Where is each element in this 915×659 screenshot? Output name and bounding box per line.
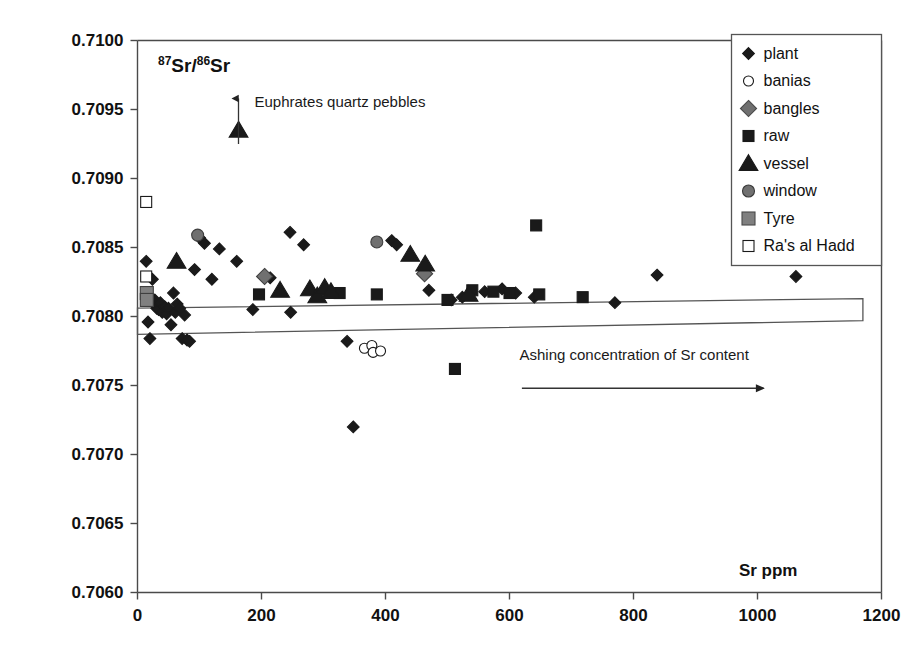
x-axis-title: Sr ppm <box>739 561 798 580</box>
data-point <box>449 363 460 374</box>
y-tick-label: 0.7075 <box>72 376 124 395</box>
data-point <box>141 196 152 207</box>
x-tick-label: 1200 <box>863 606 901 625</box>
y-tick-label: 0.7070 <box>72 445 124 464</box>
data-point <box>371 289 382 300</box>
legend-item-tyre[interactable]: Tyre <box>742 210 795 227</box>
scatter-plot-svg: 0.70600.70650.70700.70750.70800.70850.70… <box>0 0 915 659</box>
legend-item-label: vessel <box>764 155 809 172</box>
data-point <box>651 269 663 281</box>
x-tick-label: 400 <box>371 606 399 625</box>
data-point <box>488 286 499 297</box>
legend-item-label: Tyre <box>764 210 795 227</box>
legend-item-label: plant <box>764 45 799 62</box>
legend-item-label: bangles <box>764 100 820 117</box>
y-tick-label: 0.7085 <box>72 238 124 257</box>
data-point <box>401 246 420 262</box>
data-point <box>609 297 621 309</box>
data-point <box>142 316 154 328</box>
figure-container: 0.70600.70650.70700.70750.70800.70850.70… <box>0 0 915 659</box>
data-point <box>141 271 152 282</box>
y-tick-label: 0.7080 <box>72 307 124 326</box>
legend-box <box>732 35 882 266</box>
legend-item-vessel[interactable]: vessel <box>739 155 809 172</box>
y-tick-label: 0.7060 <box>72 583 124 602</box>
data-point <box>231 255 243 267</box>
data-point <box>285 306 297 318</box>
x-tick-label: 0 <box>133 606 142 625</box>
series-plant <box>140 226 802 432</box>
data-point <box>504 288 515 299</box>
x-tick-label: 1000 <box>739 606 777 625</box>
ashing-band-group <box>138 299 863 335</box>
legend-item-label: window <box>763 182 818 199</box>
data-point <box>247 304 259 316</box>
series-tyre <box>140 287 153 307</box>
legend-marker-circle-icon <box>743 185 755 197</box>
legend-marker-square-icon <box>743 131 754 142</box>
y-tick-label: 0.7065 <box>72 514 124 533</box>
data-point <box>271 281 290 297</box>
data-point <box>790 271 802 283</box>
data-point <box>298 239 310 251</box>
data-point <box>213 243 225 255</box>
ashing-band-label: Ashing concentration of Sr content <box>520 346 750 363</box>
y-tick-label: 0.7100 <box>72 31 124 50</box>
data-point <box>206 273 218 285</box>
legend-marker-square-icon <box>743 241 754 252</box>
data-points-group <box>140 121 802 432</box>
y-axis-title: 87Sr/86Sr <box>158 54 231 76</box>
x-tick-label: 800 <box>619 606 647 625</box>
legend-item-label: raw <box>764 127 790 144</box>
data-point <box>376 346 386 356</box>
legend-marker-square-icon <box>742 212 755 225</box>
legend-item-label: banias <box>764 72 811 89</box>
series-bangles <box>257 266 433 285</box>
y-tick-label: 0.7095 <box>72 100 124 119</box>
legend-marker-circle-icon <box>744 76 754 86</box>
data-point <box>416 255 435 271</box>
data-point <box>140 293 153 306</box>
x-tick-label: 600 <box>495 606 523 625</box>
x-tick-label: 200 <box>247 606 275 625</box>
y-tick-label: 0.7090 <box>72 169 124 188</box>
ashing-concentration-band <box>138 299 863 335</box>
legend[interactable]: plantbaniasbanglesrawvesselwindowTyreRa'… <box>732 35 882 266</box>
data-point <box>577 292 588 303</box>
data-point <box>168 287 180 299</box>
data-point <box>442 294 453 305</box>
data-point <box>371 236 383 248</box>
series-ra-s-al-hadd <box>141 196 152 282</box>
series-banias <box>359 340 385 357</box>
data-point <box>140 255 152 267</box>
legend-item-label: Ra's al Hadd <box>764 237 855 254</box>
euphrates-annotation-label: Euphrates quartz pebbles <box>255 93 426 110</box>
data-point <box>341 335 353 347</box>
data-point <box>254 289 265 300</box>
data-point <box>347 421 359 433</box>
annotations-group: 87Sr/86SrEuphrates quartz pebblesAshing … <box>158 54 797 580</box>
data-point <box>165 319 177 331</box>
data-point <box>189 264 201 276</box>
data-point <box>167 252 186 268</box>
data-point <box>192 229 204 241</box>
data-point <box>284 226 296 238</box>
data-point <box>531 220 542 231</box>
data-point <box>423 284 435 296</box>
data-point <box>534 289 545 300</box>
